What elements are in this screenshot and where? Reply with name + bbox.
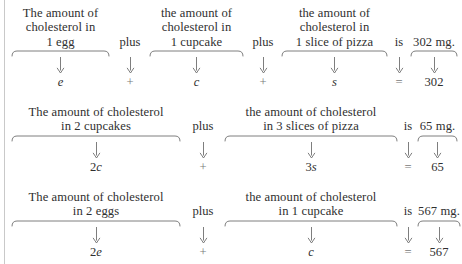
- underbrace: [11, 50, 110, 57]
- result-cell: 567 mg.567: [417, 190, 461, 259]
- variable-letter: c: [308, 245, 314, 259]
- algebraic-term: e: [11, 75, 110, 89]
- phrase-cell: The amount of cholesterolin 2 cupcakes2c: [11, 105, 181, 174]
- diagram-canvas: The amount ofcholesterol in1 eggeplus+th…: [0, 0, 462, 264]
- down-arrow-icon: [112, 57, 148, 74]
- algebraic-term: s: [281, 75, 388, 89]
- operator-word: plus: [112, 6, 148, 49]
- variable-letter: c: [96, 160, 102, 174]
- operator-cell: plus+: [182, 190, 224, 259]
- operator-word: is: [389, 6, 409, 49]
- down-arrow-icon: [224, 142, 398, 159]
- phrase-text: the amount of cholesterolin 1 cupcake: [224, 190, 398, 219]
- underbrace: [410, 50, 458, 57]
- phrase-cell: the amount of cholesterolin 3 slices of …: [224, 105, 398, 174]
- down-arrow-icon: [245, 57, 281, 74]
- phrase-line: The amount of cholesterol: [11, 105, 181, 119]
- phrase-line: in 1 cupcake: [224, 204, 398, 218]
- algebraic-term: c: [149, 75, 244, 89]
- phrase-line: 1 slice of pizza: [281, 35, 388, 49]
- phrase-text: 567 mg.: [417, 190, 461, 219]
- variable-letter: c: [194, 75, 200, 89]
- underbrace: [224, 135, 398, 142]
- phrase-line: plus: [253, 35, 274, 49]
- operator-cell: plus+: [245, 6, 281, 89]
- algebraic-term: =: [389, 75, 409, 89]
- brace-spacer: [112, 50, 148, 57]
- phrase-cell: The amount of cholesterolin 2 eggs2e: [11, 190, 181, 259]
- operator-cell: plus+: [182, 105, 224, 174]
- left-margin-rule: [4, 0, 5, 264]
- algebraic-term: 2e: [11, 245, 181, 259]
- operator-cell: is=: [399, 190, 417, 259]
- phrase-line: is: [404, 204, 412, 218]
- down-arrow-icon: [281, 57, 388, 74]
- algebraic-term: +: [182, 245, 224, 259]
- phrase-line: the amount of cholesterol: [224, 190, 398, 204]
- operator-word: plus: [182, 105, 224, 134]
- down-arrow-icon: [182, 142, 224, 159]
- underbrace: [11, 220, 181, 227]
- phrase-line: 567 mg.: [417, 204, 461, 218]
- phrase-line: 1 cupcake: [149, 35, 244, 49]
- operator-word: is: [399, 105, 417, 134]
- variable-letter: s: [312, 160, 317, 174]
- down-arrow-icon: [389, 57, 409, 74]
- algebraic-term: +: [245, 75, 281, 89]
- phrase-line: in 2 cupcakes: [11, 119, 181, 133]
- operator-cell: is=: [389, 6, 409, 89]
- operator-word: plus: [182, 190, 224, 219]
- phrase-line: the amount of: [149, 6, 244, 20]
- phrase-line: 1 egg: [11, 35, 110, 49]
- algebraic-term: +: [182, 160, 224, 174]
- down-arrow-icon: [417, 142, 458, 159]
- phrase-line: in 3 slices of pizza: [224, 119, 398, 133]
- algebraic-term: 2c: [11, 160, 181, 174]
- phrase-line: in 2 eggs: [11, 204, 181, 218]
- phrase-line: cholesterol in: [149, 20, 244, 34]
- underbrace: [11, 135, 181, 142]
- phrase-text: the amount ofcholesterol in1 cupcake: [149, 6, 244, 49]
- brace-spacer: [389, 50, 409, 57]
- operator-word: plus: [245, 6, 281, 49]
- down-arrow-icon: [11, 57, 110, 74]
- phrase-line: plus: [120, 35, 141, 49]
- brace-spacer: [245, 50, 281, 57]
- operator-cell: is=: [399, 105, 417, 174]
- result-cell: 65 mg.65: [417, 105, 458, 174]
- phrase-line: is: [395, 35, 403, 49]
- down-arrow-icon: [149, 57, 244, 74]
- down-arrow-icon: [182, 227, 224, 244]
- phrase-line: cholesterol in: [11, 20, 110, 34]
- phrase-line: plus: [193, 119, 214, 133]
- phrase-line: plus: [193, 204, 214, 218]
- phrase-text: The amount of cholesterolin 2 eggs: [11, 190, 181, 219]
- phrase-cell: The amount ofcholesterol in1 egge: [11, 6, 110, 89]
- variable-letter: e: [96, 245, 102, 259]
- operator-cell: plus+: [112, 6, 148, 89]
- brace-spacer: [399, 135, 417, 142]
- phrase-cell: the amount ofcholesterol in1 slice of pi…: [281, 6, 388, 89]
- underbrace: [281, 50, 388, 57]
- brace-spacer: [399, 220, 417, 227]
- algebraic-term: =: [399, 245, 417, 259]
- result-cell: 302 mg.302: [410, 6, 458, 89]
- phrase-line: 65 mg.: [417, 119, 458, 133]
- down-arrow-icon: [11, 227, 181, 244]
- variable-letter: s: [332, 75, 337, 89]
- underbrace: [417, 135, 458, 142]
- underbrace: [224, 220, 398, 227]
- down-arrow-icon: [410, 57, 458, 74]
- algebraic-term: =: [399, 160, 417, 174]
- phrase-text: The amount ofcholesterol in1 egg: [11, 6, 110, 49]
- phrase-line: cholesterol in: [281, 20, 388, 34]
- phrase-line: the amount of cholesterol: [224, 105, 398, 119]
- phrase-line: the amount of: [281, 6, 388, 20]
- down-arrow-icon: [417, 227, 461, 244]
- phrase-line: 302 mg.: [410, 35, 458, 49]
- underbrace: [417, 220, 461, 227]
- down-arrow-icon: [11, 142, 181, 159]
- phrase-text: the amount of cholesterolin 3 slices of …: [224, 105, 398, 134]
- underbrace: [149, 50, 244, 57]
- phrase-line: is: [404, 119, 412, 133]
